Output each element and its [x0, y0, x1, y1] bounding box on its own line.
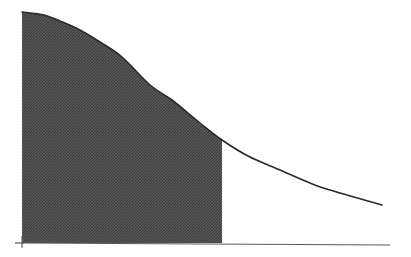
- x-axis: [22, 243, 390, 245]
- figure-root: [0, 0, 411, 257]
- plot-canvas: [0, 0, 411, 257]
- shaded-area-under-curve: [22, 12, 382, 243]
